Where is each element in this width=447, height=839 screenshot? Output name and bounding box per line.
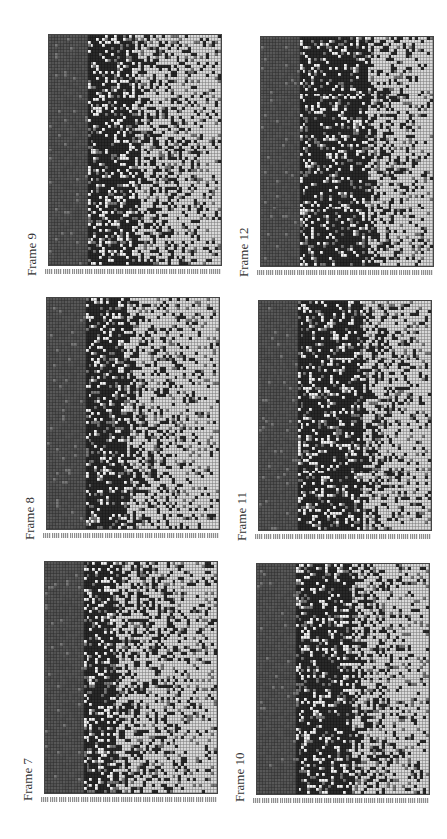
tick-label [270, 270, 274, 275]
tick-label [80, 269, 84, 274]
tick-label [67, 269, 71, 274]
tick-label [171, 533, 175, 538]
tick-label [339, 534, 343, 539]
tick-label [414, 534, 418, 539]
tick-label [261, 270, 265, 275]
tick-label [282, 534, 286, 539]
heatmap-grid-frame-11 [258, 300, 432, 531]
tick-label [160, 797, 164, 802]
tick-label [118, 533, 122, 538]
heatmap-grid-frame-8 [46, 297, 220, 530]
tick-label [169, 269, 173, 274]
tick-label [50, 797, 54, 802]
tick-label [65, 533, 69, 538]
tick-label [364, 798, 368, 803]
tick-label [147, 269, 151, 274]
axis-tick-labels [45, 268, 222, 274]
tick-label [70, 533, 74, 538]
tick-label [343, 534, 347, 539]
tick-label [54, 269, 58, 274]
tick-label [290, 534, 294, 539]
tick-label [160, 269, 164, 274]
tick-label [143, 797, 147, 802]
tick-label [200, 797, 204, 802]
tick-label [151, 269, 155, 274]
tick-label [129, 797, 133, 802]
tick-label [112, 797, 116, 802]
tick-label [156, 269, 160, 274]
tick-label [359, 798, 363, 803]
tick-label [83, 533, 87, 538]
tick-label [273, 534, 277, 539]
tick-label [417, 798, 421, 803]
tick-label [268, 534, 272, 539]
tick-label [162, 533, 166, 538]
tick-label [421, 270, 425, 275]
tick-label [207, 533, 211, 538]
tick-label [58, 269, 62, 274]
tick-label [423, 534, 427, 539]
tick-label [337, 798, 341, 803]
tick-label [255, 534, 259, 539]
tick-label [94, 269, 98, 274]
tick-label [169, 797, 173, 802]
tick-label [185, 533, 189, 538]
tick-label [133, 269, 137, 274]
tick-label [98, 797, 102, 802]
tick-label [257, 270, 261, 275]
tick-label [295, 534, 299, 539]
frame-label: Frame 9 [24, 233, 40, 276]
frame-label: Frame 11 [234, 492, 250, 541]
tick-label [337, 270, 341, 275]
tick-label [167, 533, 171, 538]
tick-label [392, 534, 396, 539]
tick-label [56, 533, 60, 538]
tick-label [156, 797, 160, 802]
tick-label [345, 270, 349, 275]
tick-label [107, 269, 111, 274]
tick-label [173, 269, 177, 274]
tick-label [189, 533, 193, 538]
tick-label [357, 534, 361, 539]
tick-label [120, 269, 124, 274]
tick-label [301, 270, 305, 275]
tick-label [116, 797, 120, 802]
tick-label [259, 534, 263, 539]
tick-label [140, 533, 144, 538]
tick-label [145, 533, 149, 538]
tick-label [352, 534, 356, 539]
tick-label [412, 798, 416, 803]
tick-label [72, 797, 76, 802]
tick-label [275, 798, 279, 803]
tick-label [279, 270, 283, 275]
tick-label [348, 534, 352, 539]
tick-label [52, 533, 56, 538]
tick-label [275, 270, 279, 275]
tick-label [105, 533, 109, 538]
tick-label [63, 797, 67, 802]
axis-tick-labels [253, 797, 430, 803]
tick-label [299, 534, 303, 539]
tick-label [94, 797, 98, 802]
tick-label [324, 798, 328, 803]
tick-label [377, 798, 381, 803]
tick-label [89, 269, 93, 274]
tick-label [47, 533, 51, 538]
tick-label [372, 270, 376, 275]
tick-label [257, 798, 261, 803]
tick-label [280, 798, 284, 803]
tick-label [213, 797, 217, 802]
tick-label [92, 533, 96, 538]
axis-tick-labels [41, 796, 218, 802]
tick-label [200, 269, 204, 274]
tick-label [131, 533, 135, 538]
tick-label [198, 533, 202, 538]
heatmap-grid-frame-12 [260, 36, 434, 267]
tick-label [366, 534, 370, 539]
tick-label [302, 798, 306, 803]
tick-label [213, 269, 217, 274]
frame-label: Frame 8 [22, 497, 38, 540]
tick-label [308, 534, 312, 539]
tick-label [264, 534, 268, 539]
tick-label [76, 797, 80, 802]
